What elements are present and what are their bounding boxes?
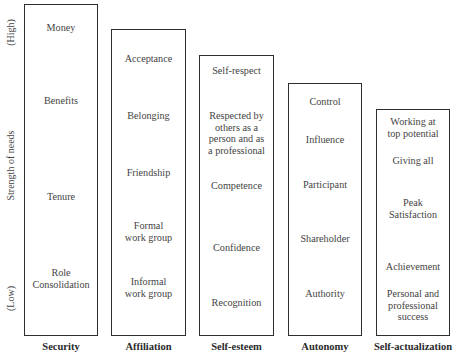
need-item: Achievement	[377, 261, 449, 273]
need-item: Shareholder	[289, 233, 361, 245]
need-item: Working at top potential	[377, 116, 449, 139]
need-item: Self-respect	[200, 65, 273, 77]
need-item: Influence	[289, 134, 361, 146]
column-self-esteem: Self-respect Respected by others as a pe…	[199, 55, 274, 336]
y-axis-high-label: (High)	[5, 18, 16, 48]
need-item: Acceptance	[112, 53, 185, 65]
y-axis-title: Strength of needs	[5, 121, 16, 211]
need-item: Money	[25, 22, 97, 34]
y-axis-low-label: (Low)	[5, 284, 16, 314]
category-label-self-esteem: Self-esteem	[199, 341, 274, 352]
need-item: Giving all	[377, 155, 449, 167]
need-item: Authority	[289, 288, 361, 300]
need-item: Informal work group	[112, 276, 185, 299]
category-label-affiliation: Affiliation	[111, 341, 186, 352]
column-self-actualization: Working at top potential Giving all Peak…	[376, 109, 450, 336]
column-affiliation: Acceptance Belonging Friendship Formal w…	[111, 29, 186, 336]
need-item: Personal and professional success	[377, 288, 449, 323]
need-item: Peak Satisfaction	[377, 197, 449, 220]
need-item: Friendship	[112, 167, 185, 179]
need-item: Competence	[200, 180, 273, 192]
need-item: Role Consolidation	[25, 267, 97, 290]
need-item: Formal work group	[112, 220, 185, 243]
need-item: Control	[289, 96, 361, 108]
category-label-autonomy: Autonomy	[288, 341, 362, 352]
need-item: Confidence	[200, 242, 273, 254]
column-autonomy: Control Influence Participant Shareholde…	[288, 83, 362, 336]
need-item: Respected by others as a person and as a…	[200, 110, 273, 156]
need-item: Recognition	[200, 297, 273, 309]
category-label-self-actualization: Self-actualization	[366, 341, 456, 352]
column-security: Money Benefits Tenure Role Consolidation	[24, 4, 98, 336]
need-item: Tenure	[25, 191, 97, 203]
need-item: Belonging	[112, 110, 185, 122]
need-item: Participant	[289, 179, 361, 191]
category-label-security: Security	[24, 341, 98, 352]
need-item: Benefits	[25, 95, 97, 107]
